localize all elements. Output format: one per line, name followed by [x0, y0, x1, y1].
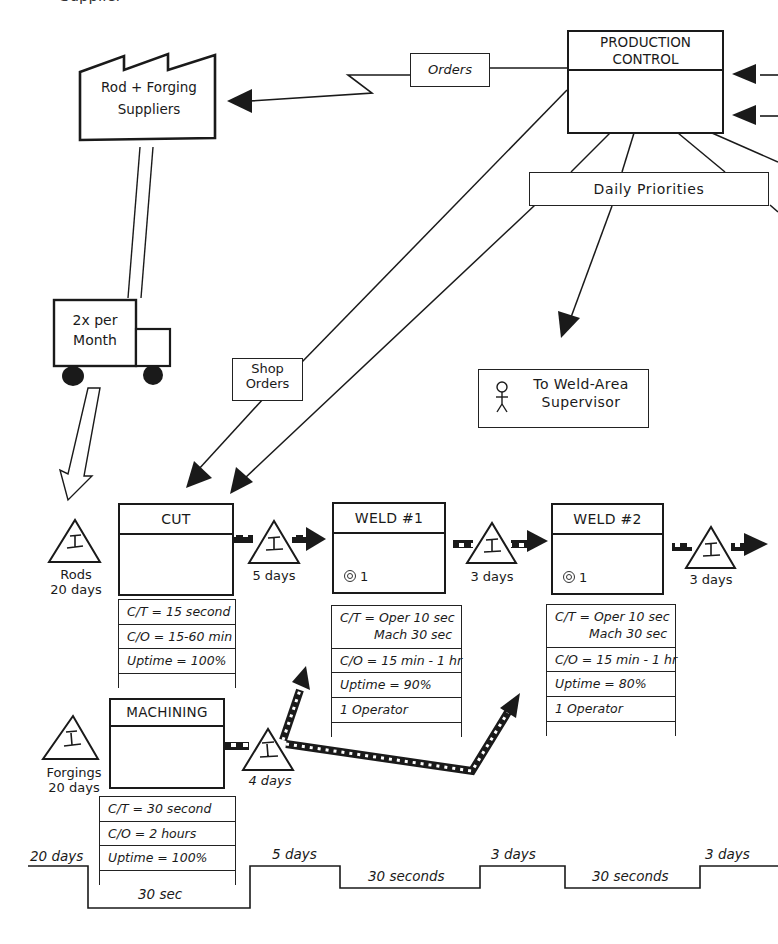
- timeline-upper-1: 20 days: [30, 848, 83, 864]
- person-icon: [494, 380, 510, 416]
- shop-orders-label: Shop Orders: [233, 359, 302, 392]
- priorities-arrowhead-icon: [558, 311, 580, 338]
- timeline-lower-3: 30 seconds: [592, 868, 669, 884]
- inventory-after-machining-label: 4 days: [240, 774, 300, 789]
- process-weld1-title: WELD #1: [334, 504, 444, 534]
- title-fragment: Supplier: [60, 0, 122, 5]
- weld1-operators: 1: [344, 569, 368, 584]
- shop-orders-line2: Orders: [233, 377, 302, 392]
- production-control-line2: CONTROL: [569, 51, 722, 68]
- daily-priorities-label: Daily Priorities: [530, 173, 768, 205]
- shipment-arrow-icon: [60, 388, 100, 500]
- production-control-box[interactable]: PRODUCTION CONTROL: [567, 30, 724, 134]
- process-weld1-data: C/T = Oper 10 sec Mach 30 sec C/O = 15 m…: [331, 605, 462, 737]
- weld1-cycle-time: C/T = Oper 10 sec Mach 30 sec: [332, 605, 461, 648]
- inventory-after-weld2-label: 3 days: [681, 573, 741, 588]
- inventory-forgings-icon: [43, 716, 98, 759]
- timeline-lower-1: 30 sec: [138, 886, 182, 902]
- push-arrowhead-icon: [527, 530, 548, 552]
- operator-icon: [344, 570, 356, 582]
- push-arrowhead-icon: [306, 527, 326, 551]
- production-control-line1: PRODUCTION: [569, 34, 722, 51]
- weld2-operator-count: 1 Operator: [547, 696, 675, 721]
- cut-uptime: Uptime = 100%: [119, 648, 235, 673]
- inventory-rods-label: Rods20 days: [40, 568, 112, 598]
- weld1-changeover: C/O = 15 min - 1 hr: [332, 648, 461, 673]
- process-cut-data: C/T = 15 second C/O = 15-60 min Uptime =…: [118, 599, 236, 688]
- timeline-lower-2: 30 seconds: [368, 868, 445, 884]
- process-weld2[interactable]: WELD #2 1: [551, 503, 664, 595]
- daily-priorities-box[interactable]: Daily Priorities: [529, 172, 769, 206]
- inventory-forgings-label: Forgings20 days: [34, 766, 114, 796]
- truck-label-line2: Month: [56, 332, 134, 348]
- supplier-label-line2: Suppliers: [84, 102, 214, 118]
- machining-uptime: Uptime = 100%: [100, 845, 235, 870]
- weld2-uptime: Uptime = 80%: [547, 671, 675, 696]
- production-control-header: PRODUCTION CONTROL: [569, 32, 722, 71]
- truck-label: 2x per Month: [56, 312, 134, 348]
- cut-cycle-time: C/T = 15 second: [119, 599, 235, 624]
- supervisor-label: To Weld-Area Supervisor: [519, 376, 643, 410]
- machining-changeover: C/O = 2 hours: [100, 821, 235, 846]
- orders-box[interactable]: Orders: [410, 53, 490, 87]
- inventory-weld1-weld2-label: 3 days: [462, 570, 522, 585]
- weld1-operator-count: 1 Operator: [332, 697, 461, 722]
- shop-orders-line1: Shop: [233, 362, 302, 377]
- machining-cycle-time: C/T = 30 second: [100, 796, 235, 821]
- incoming-arrow-icon: [732, 105, 756, 125]
- supplier-label-line1: Rod + Forging: [84, 80, 214, 96]
- process-weld2-data: C/T = Oper 10 sec Mach 30 sec C/O = 15 m…: [546, 604, 676, 736]
- orders-label: Orders: [411, 54, 489, 86]
- orders-electronic-flow: [250, 68, 568, 101]
- process-cut-title: CUT: [120, 505, 232, 535]
- shop-orders-arrowhead-icon: [186, 461, 212, 488]
- timeline-upper-3: 3 days: [491, 846, 536, 862]
- supplier-label: Rod + Forging Suppliers: [84, 80, 214, 117]
- process-machining-title: MACHINING: [111, 700, 223, 727]
- shop-orders-arrowhead-icon: [230, 467, 253, 494]
- weld1-uptime: Uptime = 90%: [332, 672, 461, 697]
- weld2-cycle-time: C/T = Oper 10 sec Mach 30 sec: [547, 604, 675, 647]
- cut-changeover: C/O = 15-60 min: [119, 624, 235, 649]
- timeline-upper-4: 3 days: [705, 846, 750, 862]
- supervisor-line2: Supervisor: [519, 394, 643, 410]
- orders-arrowhead-icon: [227, 89, 252, 113]
- supervisor-box[interactable]: To Weld-Area Supervisor: [478, 369, 649, 428]
- process-machining[interactable]: MACHINING: [109, 698, 225, 789]
- push-arrowhead-icon: [744, 533, 768, 556]
- process-weld2-title: WELD #2: [553, 505, 662, 535]
- operator-icon: [563, 571, 575, 583]
- inventory-cut-weld1-label: 5 days: [244, 569, 304, 584]
- process-machining-data: C/T = 30 second C/O = 2 hours Uptime = 1…: [99, 796, 236, 885]
- supervisor-line1: To Weld-Area: [519, 376, 643, 392]
- weld2-operators: 1: [563, 570, 587, 585]
- truck-label-line1: 2x per: [56, 312, 134, 328]
- incoming-arrow-icon: [732, 64, 756, 84]
- weld2-changeover: C/O = 15 min - 1 hr: [547, 647, 675, 672]
- process-weld1[interactable]: WELD #1 1: [332, 502, 446, 594]
- process-cut[interactable]: CUT: [118, 503, 234, 596]
- push-arrow-to-weld1: [283, 666, 310, 740]
- shop-orders-box[interactable]: Shop Orders: [232, 358, 303, 401]
- timeline-upper-2: 5 days: [272, 846, 317, 862]
